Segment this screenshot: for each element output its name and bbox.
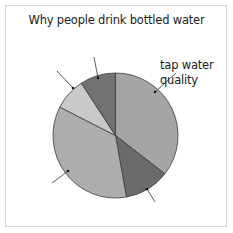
leader-line-5 [147, 189, 155, 202]
leader-dot-4 [67, 170, 70, 173]
pie-slices [53, 73, 178, 198]
leader-dot-2 [97, 77, 100, 80]
leader-dot-1 [154, 91, 157, 94]
slice-label-line-1: tap water [160, 58, 213, 73]
leader-dot-3 [72, 87, 75, 90]
pie-chart [0, 0, 233, 233]
leader-dot-5 [146, 188, 149, 191]
slice-label-line-2: quality [160, 73, 213, 88]
slice-label-tap-water-quality: tap water quality [160, 58, 213, 88]
leader-line-4 [52, 171, 68, 183]
leader-line-2 [94, 57, 98, 78]
leader-line-3 [57, 71, 73, 88]
